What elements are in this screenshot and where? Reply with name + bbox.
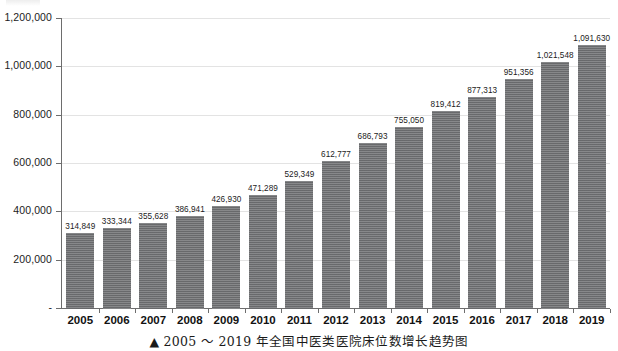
y-axis-tick-label: 200,000 [13, 253, 52, 265]
bar-value-label: 355,628 [138, 212, 168, 221]
bar [249, 195, 277, 309]
bar [541, 62, 569, 309]
bar [505, 79, 533, 309]
x-axis-tick-label: 2008 [172, 314, 209, 326]
bar [103, 228, 131, 309]
x-axis-tick-mark [172, 309, 173, 313]
bar-value-label: 951,356 [504, 68, 534, 77]
x-axis-tick-mark [208, 309, 209, 313]
x-axis-tick-mark [391, 309, 392, 313]
bar-value-label: 386,941 [175, 205, 205, 214]
x-axis-tick-mark [573, 309, 574, 313]
x-axis-tick-mark [135, 309, 136, 313]
bar-column: 877,313 [468, 18, 496, 309]
bar-column: 1,021,548 [541, 18, 569, 309]
x-axis-tick-label: 2015 [427, 314, 464, 326]
x-axis-tick-mark [464, 309, 465, 313]
y-axis-tick-label: 800,000 [13, 108, 52, 120]
x-axis-tick-mark [354, 309, 355, 313]
bar-value-label: 529,349 [284, 170, 314, 179]
bar-value-label: 333,344 [102, 217, 132, 226]
bar-chart: -200,000400,000600,000800,0001,000,0001,… [0, 4, 618, 322]
bar [578, 45, 606, 309]
x-axis-tick-label: 2007 [135, 314, 172, 326]
bar [468, 97, 496, 309]
figure-caption-text: ▲ 2005 ～ 2019 年全国中医类医院床位数增长趋势图 [149, 331, 468, 350]
x-axis-tick-label: 2013 [354, 314, 391, 326]
y-axis-tick-mark [56, 260, 62, 261]
bar-column: 386,941 [176, 18, 204, 309]
y-axis-tick-label: 1,200,000 [4, 11, 52, 23]
y-axis-tick-mark [56, 211, 62, 212]
x-axis-tick-mark [610, 309, 611, 313]
y-axis-tick-mark [56, 308, 62, 309]
x-axis-tick-mark [281, 309, 282, 313]
x-axis-tick-label: 2006 [99, 314, 136, 326]
bar-value-label: 612,777 [321, 150, 351, 159]
x-axis-labels: 2005200620072008200920102011201220132014… [62, 314, 610, 330]
bar-value-label: 755,050 [394, 116, 424, 125]
bar-value-label: 877,313 [467, 86, 497, 95]
y-axis-tick-label: 600,000 [13, 156, 52, 168]
bar [176, 216, 204, 310]
x-axis-tick-mark [245, 309, 246, 313]
x-axis-tick-mark [318, 309, 319, 313]
bar-value-label: 471,289 [248, 184, 278, 193]
bar [212, 206, 240, 309]
bar [66, 233, 94, 309]
bar-value-label: 819,412 [431, 100, 461, 109]
bar [395, 127, 423, 309]
x-axis-tick-label: 2018 [537, 314, 574, 326]
y-axis-tick-label: 1,000,000 [4, 59, 52, 71]
bar [285, 181, 313, 309]
x-axis-tick-label: 2019 [573, 314, 610, 326]
bar-column: 314,849 [66, 18, 94, 309]
bar-column: 755,050 [395, 18, 423, 309]
bar [139, 223, 167, 309]
y-axis-tick-mark [56, 163, 62, 164]
x-axis-tick-label: 2011 [281, 314, 318, 326]
bar-column: 529,349 [285, 18, 313, 309]
y-axis-tick-mark [56, 18, 62, 19]
bar-column: 951,356 [505, 18, 533, 309]
x-axis-tick-mark [427, 309, 428, 313]
bar-value-label: 1,021,548 [537, 51, 574, 60]
y-axis-tick-label: - [48, 301, 52, 313]
x-axis-tick-mark [537, 309, 538, 313]
x-axis-tick-label: 2009 [208, 314, 245, 326]
y-axis-labels: -200,000400,000600,000800,0001,000,0001,… [0, 4, 52, 322]
bar-column: 333,344 [103, 18, 131, 309]
bar-column: 819,412 [432, 18, 460, 309]
bar-column: 686,793 [359, 18, 387, 309]
chart-figure: -200,000400,000600,000800,0001,000,0001,… [0, 0, 618, 351]
bar-value-label: 314,849 [65, 222, 95, 231]
y-axis-tick-label: 400,000 [13, 204, 52, 216]
figure-caption: ▲ 2005 ～ 2019 年全国中医类医院床位数增长趋势图 [0, 330, 618, 351]
x-axis-tick-label: 2010 [245, 314, 282, 326]
y-axis-tick-mark [56, 66, 62, 67]
bar-series: 314,849333,344355,628386,941426,930471,2… [62, 18, 610, 309]
x-axis-tick-mark [500, 309, 501, 313]
x-axis-tick-label: 2012 [318, 314, 355, 326]
y-axis-tick-mark [56, 115, 62, 116]
bar-column: 1,091,630 [578, 18, 606, 309]
x-axis-tick-label: 2014 [391, 314, 428, 326]
bar-column: 612,777 [322, 18, 350, 309]
bar [359, 143, 387, 309]
x-axis-tick-label: 2005 [62, 314, 99, 326]
bar-value-label: 686,793 [358, 132, 388, 141]
x-axis-tick-label: 2016 [464, 314, 501, 326]
bar-column: 426,930 [212, 18, 240, 309]
x-axis-tick-label: 2017 [500, 314, 537, 326]
bar-column: 355,628 [139, 18, 167, 309]
bar-value-label: 1,091,630 [573, 34, 610, 43]
bar-column: 471,289 [249, 18, 277, 309]
x-axis-tick-mark [99, 309, 100, 313]
bar-value-label: 426,930 [211, 195, 241, 204]
bar [322, 161, 350, 309]
bar [432, 111, 460, 309]
